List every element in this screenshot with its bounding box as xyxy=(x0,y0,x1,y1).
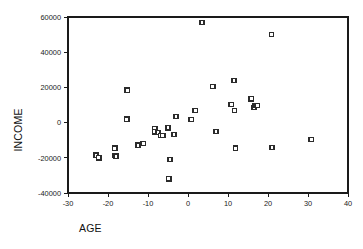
data-point-marker xyxy=(234,146,238,150)
data-point-marker xyxy=(200,20,204,24)
data-point-marker xyxy=(141,141,145,145)
data-point-marker xyxy=(97,156,101,160)
y-tick-label: 20000 xyxy=(40,83,61,92)
y-tick-label: 0 xyxy=(57,118,61,127)
x-tick-label: 30 xyxy=(304,199,312,208)
y-tick-label: -20000 xyxy=(38,154,61,163)
data-point-marker xyxy=(114,154,118,158)
data-point-marker xyxy=(168,157,172,161)
data-point-marker xyxy=(174,114,178,118)
data-point-marker xyxy=(270,33,274,37)
data-point-marker xyxy=(232,78,236,82)
data-point-marker xyxy=(166,126,170,130)
y-axis-ticks: -40000-200000200004000060000 xyxy=(38,13,68,198)
x-tick-label: 0 xyxy=(186,199,190,208)
chart-svg: -40000-200000200004000060000 -30-20-1001… xyxy=(0,0,363,249)
data-point-marker xyxy=(214,129,218,133)
y-tick-label: 60000 xyxy=(40,13,61,22)
data-point-marker xyxy=(229,103,233,107)
plot-frame xyxy=(68,17,348,193)
x-tick-label: -10 xyxy=(143,199,154,208)
data-point-marker xyxy=(232,109,236,113)
x-axis-ticks: -30-20-10010203040 xyxy=(63,193,352,208)
y-axis-title: INCOME xyxy=(12,108,24,151)
x-tick-label: 10 xyxy=(224,199,232,208)
data-point-marker xyxy=(249,97,253,101)
x-tick-label: -20 xyxy=(103,199,114,208)
data-point-marker xyxy=(125,117,129,121)
data-point-marker xyxy=(136,143,140,147)
data-point-marker xyxy=(161,133,165,137)
data-point-marker xyxy=(172,132,176,136)
y-tick-label: 40000 xyxy=(40,48,61,57)
data-point-marker xyxy=(113,146,117,150)
data-point-marker xyxy=(189,118,193,122)
data-point-marker xyxy=(193,109,197,113)
data-point-marker xyxy=(211,84,215,88)
x-tick-label: -30 xyxy=(63,199,74,208)
data-point-marker xyxy=(309,137,313,141)
data-point-marker xyxy=(167,177,171,181)
scatter-chart: -40000-200000200004000060000 -30-20-1001… xyxy=(0,0,363,249)
x-tick-label: 20 xyxy=(264,199,272,208)
x-axis-title: AGE xyxy=(79,222,102,234)
x-tick-label: 40 xyxy=(344,199,352,208)
data-point-marker xyxy=(270,145,274,149)
data-points xyxy=(94,20,313,181)
data-point-marker xyxy=(125,88,129,92)
plot-border xyxy=(68,17,348,193)
y-tick-label: -40000 xyxy=(38,189,61,198)
data-point-marker xyxy=(255,103,259,107)
